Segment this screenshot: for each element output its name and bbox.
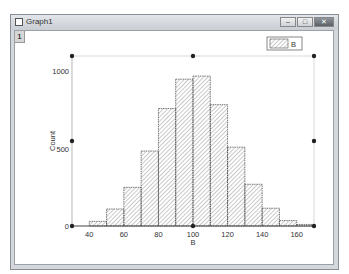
histogram-bar	[193, 76, 210, 226]
legend-label: B	[291, 40, 296, 49]
x-axis-label: B	[190, 238, 195, 247]
legend-swatch	[270, 39, 288, 48]
x-tick-label: 80	[154, 230, 162, 239]
histogram-bar	[279, 221, 296, 226]
legend[interactable]: B	[267, 37, 302, 50]
histogram-bar	[176, 79, 193, 226]
histogram-bar	[141, 151, 158, 226]
histogram-bar	[245, 184, 262, 226]
x-tick-label: 140	[256, 230, 269, 239]
y-tick-label: 0	[65, 222, 69, 231]
x-tick-label: 120	[221, 230, 234, 239]
histogram-bar	[262, 208, 279, 226]
y-axis-label: Count	[48, 130, 57, 151]
x-tick-label: 160	[290, 230, 303, 239]
histogram-bar	[210, 105, 227, 226]
histogram-bar	[124, 187, 141, 226]
y-tick-label: 1000	[52, 67, 69, 76]
histogram-bar	[228, 147, 245, 226]
x-tick-label: 40	[85, 230, 93, 239]
histogram-bars	[89, 76, 314, 226]
x-tick-label: 60	[120, 230, 128, 239]
histogram-bar	[89, 221, 106, 226]
histogram-bar	[158, 109, 175, 226]
histogram-chart: 05001000 406080100120140160 B Count B	[0, 0, 349, 274]
y-tick-label: 500	[56, 145, 69, 154]
histogram-bar	[107, 209, 124, 226]
